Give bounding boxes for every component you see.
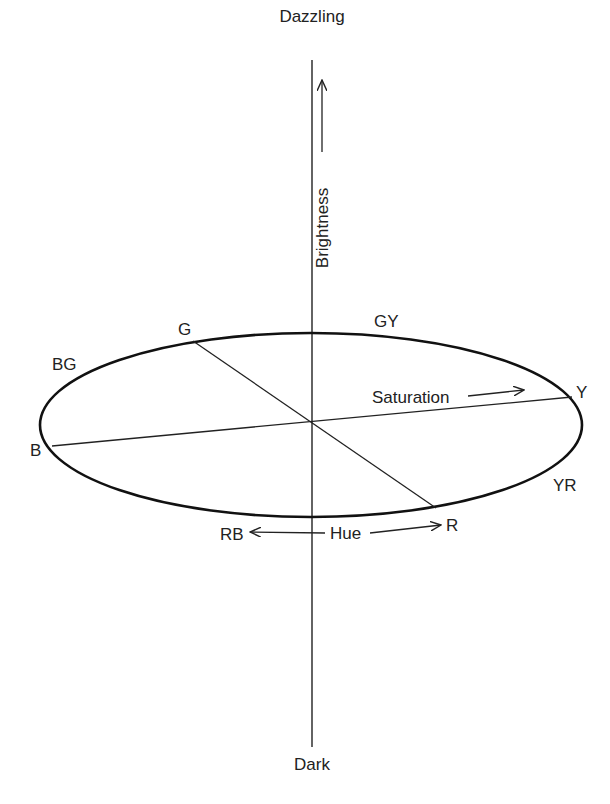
hue-point-g: G — [178, 320, 191, 339]
axis-bottom-label: Dark — [294, 755, 330, 774]
axis-top-label: Dazzling — [279, 7, 344, 26]
hue-label: Hue — [330, 524, 361, 543]
hue-point-r: R — [446, 516, 458, 535]
color-solid-diagram: Dazzling Dark Brightness Saturation Hue … — [0, 0, 610, 804]
hue-point-y: Y — [576, 383, 587, 402]
saturation-label: Saturation — [372, 388, 450, 407]
green-red-diameter — [193, 341, 436, 508]
hue-point-gy: GY — [374, 312, 399, 331]
hue-point-bg: BG — [52, 355, 77, 374]
hue-circle — [40, 333, 582, 517]
hue-point-rb: RB — [220, 525, 244, 544]
brightness-label: Brightness — [313, 188, 332, 268]
hue-arrow-right-icon — [370, 525, 441, 533]
hue-point-b: B — [30, 441, 41, 460]
saturation-arrow-icon — [468, 390, 524, 396]
hue-arrow-left-icon — [250, 532, 325, 533]
hue-point-yr: YR — [553, 476, 577, 495]
